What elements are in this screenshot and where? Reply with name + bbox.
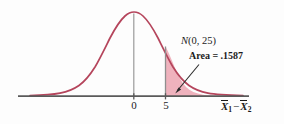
distribution-label-params: (0, 25) (188, 35, 216, 46)
distribution-label: N(0, 25) (181, 36, 216, 47)
x-axis-label: X1−X2 (221, 101, 251, 112)
x-axis-label-sub1: 1 (228, 105, 232, 114)
normal-distribution-figure: N(0, 25) Area = .1587 0 5 X1−X2 (0, 0, 284, 124)
x-axis-label-sub2: 2 (248, 105, 252, 114)
distribution-label-symbol: N (181, 35, 188, 46)
x-bar-2: X (240, 101, 247, 112)
area-label: Area = .1587 (189, 51, 243, 61)
x-axis-label-x2: X (240, 100, 247, 112)
tick-label-zero: 0 (128, 100, 140, 111)
tick-label-five: 5 (160, 100, 172, 111)
